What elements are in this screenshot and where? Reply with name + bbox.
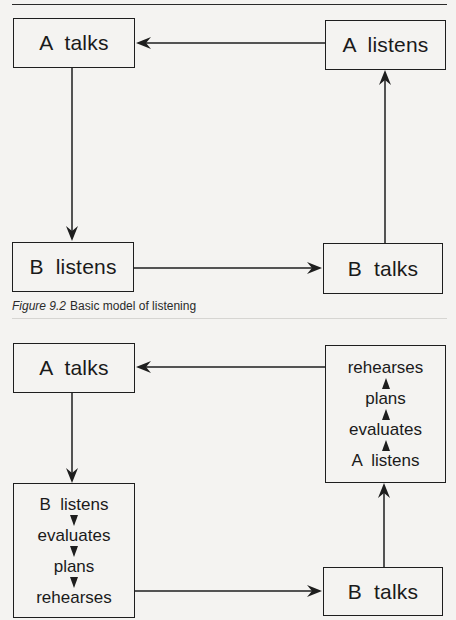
box-label: A listens (342, 33, 428, 57)
figure-number: Figure 9.2 (12, 299, 66, 313)
box-label: A talks (39, 356, 108, 380)
caption-rule (12, 318, 447, 319)
step-label: plans (54, 557, 95, 576)
box-label: B talks (348, 580, 418, 604)
step-label: rehearses (36, 588, 112, 607)
box-b-talks: B talks (323, 243, 443, 294)
step-label: rehearses (348, 358, 424, 377)
step-label: evaluates (349, 420, 422, 439)
box-b-listens: B listens (12, 242, 134, 292)
step-label: A listens (351, 451, 419, 470)
arrow-up-icon (379, 70, 391, 85)
arrow-down-icon (70, 577, 78, 588)
arrow-left-icon (136, 361, 151, 373)
step-label: plans (365, 389, 406, 408)
box-a-listens: A listens (325, 20, 446, 70)
box-label: B talks (348, 257, 418, 281)
box-a-talks-2: A talks (13, 343, 135, 393)
box-a-talks: A talks (13, 18, 135, 68)
arrow-up-icon (378, 483, 390, 498)
box-a-listening-process: rehearses plans evaluates A listens (325, 345, 446, 483)
arrow-up-icon (382, 409, 390, 420)
step-label: B listens (40, 495, 109, 514)
arrow-right-icon (307, 585, 322, 597)
arrow-down-icon (66, 226, 78, 241)
step-label: evaluates (38, 526, 111, 545)
box-label: B listens (29, 255, 116, 279)
arrow-up-icon (382, 378, 390, 389)
arrow-down-icon (66, 468, 78, 483)
arrow-up-icon (382, 440, 390, 451)
box-b-listening-process: B listens evaluates plans rehearses (13, 483, 135, 618)
figure-caption: Figure 9.2Basic model of listening (12, 299, 196, 313)
figure-title: Basic model of listening (70, 299, 196, 313)
top-rule (12, 4, 447, 5)
arrow-down-icon (70, 515, 78, 526)
box-b-talks-2: B talks (323, 567, 443, 616)
arrow-down-icon (70, 546, 78, 557)
box-label: A talks (39, 31, 108, 55)
arrow-left-icon (136, 37, 151, 49)
arrow-right-icon (307, 262, 322, 274)
